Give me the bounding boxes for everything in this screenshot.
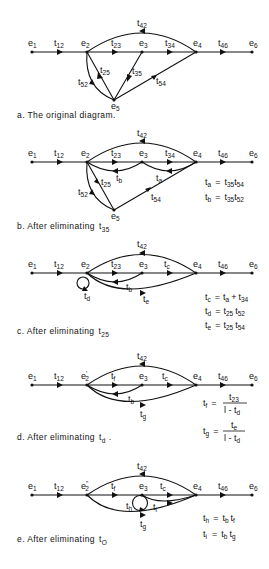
- label-t42: t42: [137, 351, 147, 362]
- node-e2-prime: [85, 383, 88, 386]
- label-e3: e3: [139, 371, 148, 382]
- node-e4: [194, 271, 197, 274]
- label-e1: e1: [28, 371, 37, 382]
- arrow-icon: [167, 492, 173, 498]
- equation-ti: ti=tbtg: [203, 529, 236, 541]
- node-e6: [250, 160, 253, 163]
- node-e2: [85, 271, 88, 274]
- equation-tf: tf= t23 l - td: [203, 392, 247, 416]
- label-e4: e4: [193, 148, 202, 159]
- label-t42: t42: [137, 18, 147, 29]
- label-e3: e3: [139, 38, 148, 49]
- svg-text:l - td: l - td: [224, 433, 241, 444]
- node-e6: [250, 383, 253, 386]
- panel-d: e1 e'2 e3 e4 e6 t12 tf tc t46 t42 tb tg …: [17, 351, 258, 444]
- panel-b: e1 e2 e3 e4 e6 e5 t12 t23 t34 t46 t42 tb…: [17, 128, 258, 233]
- label-t42: t42: [137, 239, 147, 250]
- label-t46: t46: [218, 38, 228, 49]
- label-e1: e1: [28, 38, 37, 49]
- equation-tc: tc=ta+t34: [205, 292, 249, 303]
- equation-th: th=tbtf: [203, 513, 235, 524]
- label-e2-double-prime: e"2: [81, 480, 89, 492]
- equation-te: te=t25t54: [205, 320, 245, 331]
- label-e5: e5: [111, 211, 120, 222]
- label-tc: tc: [162, 371, 169, 382]
- label-e6: e6: [249, 148, 258, 159]
- arrow-icon: [57, 49, 63, 55]
- arrow-icon: [167, 49, 173, 55]
- equation-tg: tg= te l - td: [203, 420, 245, 444]
- equation-tb: tb=t35t52: [205, 192, 244, 203]
- arrow-icon: [220, 270, 226, 276]
- label-e3: e3: [139, 148, 148, 159]
- node-e4: [194, 383, 197, 386]
- label-e1: e1: [28, 481, 37, 492]
- arrow-icon: [139, 250, 145, 256]
- label-t46: t46: [218, 148, 228, 159]
- label-t54: t54: [151, 192, 161, 203]
- node-e4: [194, 50, 197, 53]
- label-e6: e6: [249, 38, 258, 49]
- arrow-icon: [57, 270, 63, 276]
- signal-flow-figure: e1 e2 e3 e4 e6 e5 t12 t23 t34 t46 t42 t2…: [0, 0, 269, 569]
- label-tf: tf: [111, 481, 116, 492]
- arrow-icon: [220, 382, 226, 388]
- label-tb: tb: [128, 394, 135, 405]
- label-t46: t46: [218, 481, 228, 492]
- label-t46: t46: [218, 259, 228, 270]
- node-e6: [250, 493, 253, 496]
- arrow-icon: [57, 382, 63, 388]
- arrow-icon: [89, 189, 95, 195]
- label-tc: tc: [160, 481, 167, 492]
- label-tc: tc: [164, 259, 171, 270]
- label-t25: t25: [100, 65, 110, 76]
- label-t23: t23: [111, 259, 121, 270]
- arrow-icon: [112, 382, 118, 388]
- node-e3: [140, 383, 143, 386]
- node-e4: [194, 493, 197, 496]
- node-e1: [30, 383, 33, 386]
- node-e2-double-prime: [85, 493, 88, 496]
- caption-c: c. After eliminatingt25: [17, 326, 109, 338]
- svg-text:t23: t23: [229, 392, 239, 403]
- label-t12: t12: [54, 481, 64, 492]
- svg-text:l - td: l - td: [224, 405, 241, 416]
- panel-a: e1 e2 e3 e4 e6 e5 t12 t23 t34 t46 t42 t2…: [17, 18, 258, 120]
- label-e2-prime: e'2: [81, 370, 89, 382]
- arrow-icon: [220, 492, 226, 498]
- arrow-icon: [220, 159, 226, 165]
- edge-tg: [87, 385, 196, 402]
- label-tb: tb: [126, 282, 133, 293]
- equation-ta: ta=t35t54: [205, 177, 244, 188]
- node-e3: [140, 160, 143, 163]
- svg-text:tf=: tf=: [203, 398, 217, 409]
- label-tf: tf: [111, 371, 116, 382]
- label-e4: e4: [193, 481, 202, 492]
- arrow-icon: [112, 270, 118, 276]
- caption-e: e. After eliminatingtO: [17, 534, 107, 546]
- node-e1: [30, 50, 33, 53]
- label-t52: t52: [78, 77, 88, 88]
- arrow-icon: [140, 402, 146, 408]
- arrow-icon: [57, 159, 63, 165]
- node-e3: [140, 493, 143, 496]
- label-t52: t52: [78, 187, 88, 198]
- svg-text:te: te: [231, 420, 238, 431]
- svg-text:tg=: tg=: [203, 426, 218, 438]
- label-th: th: [126, 501, 133, 512]
- arrow-icon: [167, 270, 173, 276]
- arrow-icon: [167, 382, 173, 388]
- label-e3: e3: [139, 481, 148, 492]
- node-e6: [250, 271, 253, 274]
- arrow-icon: [112, 492, 118, 498]
- label-t25: t25: [101, 177, 111, 188]
- label-e2: e2: [81, 148, 90, 159]
- label-t42: t42: [137, 128, 147, 139]
- node-e6: [250, 50, 253, 53]
- equation-td: td=t25t52: [205, 306, 245, 317]
- label-e4: e4: [193, 259, 202, 270]
- arrow-icon: [112, 391, 118, 397]
- caption-b: b. After eliminatingt35: [17, 221, 110, 233]
- label-e1: e1: [28, 259, 37, 270]
- node-e3: [140, 50, 143, 53]
